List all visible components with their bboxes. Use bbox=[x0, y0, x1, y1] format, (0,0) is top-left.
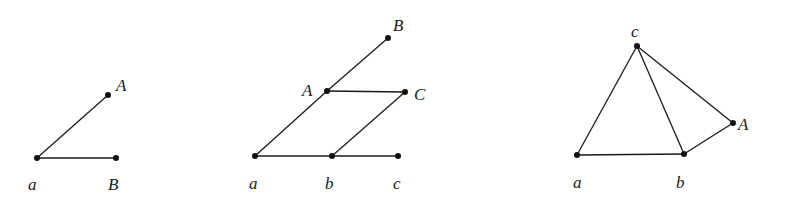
vertex-label-C: C bbox=[414, 85, 426, 104]
vertex-label-B: B bbox=[393, 16, 404, 35]
vertex-label-B: B bbox=[108, 175, 119, 194]
edge-A-B bbox=[327, 38, 388, 91]
graph-1: aAB bbox=[28, 76, 127, 194]
vertex-label-a: a bbox=[573, 173, 582, 192]
edge-b-A bbox=[684, 123, 733, 154]
vertex-label-b: b bbox=[325, 174, 334, 193]
edge-a-b bbox=[577, 154, 684, 155]
vertex-A bbox=[105, 92, 111, 98]
edge-b-C bbox=[332, 92, 405, 156]
vertex-label-a: a bbox=[249, 174, 258, 193]
vertex-a bbox=[34, 155, 40, 161]
vertex-label-c: c bbox=[393, 174, 401, 193]
edge-c-b bbox=[637, 46, 684, 154]
diagram-canvas: aAB BACabc cAab bbox=[0, 0, 788, 207]
vertex-label-A: A bbox=[737, 115, 749, 134]
vertex-label-c: c bbox=[631, 22, 639, 41]
vertex-a bbox=[574, 152, 580, 158]
edge-c-A bbox=[637, 46, 733, 123]
graph-2: BACabc bbox=[249, 16, 426, 193]
edge-a-A bbox=[37, 95, 108, 158]
edge-A-C bbox=[327, 91, 405, 92]
vertex-c bbox=[634, 43, 640, 49]
vertex-label-A: A bbox=[301, 81, 313, 100]
vertex-b bbox=[681, 151, 687, 157]
vertex-label-b: b bbox=[676, 173, 685, 192]
vertex-label-a: a bbox=[28, 175, 37, 194]
edge-a-A bbox=[255, 91, 327, 156]
vertex-B bbox=[113, 155, 119, 161]
vertex-a bbox=[252, 153, 258, 159]
graph-3: cAab bbox=[573, 22, 749, 192]
vertex-c bbox=[395, 153, 401, 159]
vertex-B bbox=[385, 35, 391, 41]
vertex-A bbox=[324, 88, 330, 94]
vertex-label-A: A bbox=[115, 76, 127, 95]
vertex-b bbox=[329, 153, 335, 159]
vertex-A bbox=[730, 120, 736, 126]
vertex-C bbox=[402, 89, 408, 95]
edge-a-c bbox=[577, 46, 637, 155]
